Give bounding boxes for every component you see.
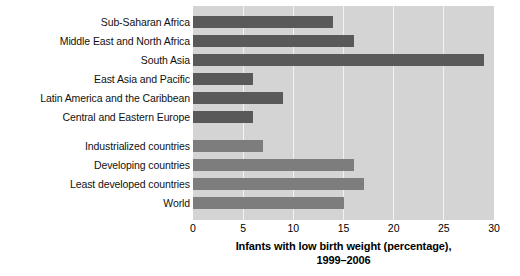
bar bbox=[193, 159, 354, 171]
category-label: Latin America and the Caribbean bbox=[0, 93, 190, 104]
category-label: Middle East and North Africa bbox=[0, 36, 190, 47]
caption-line-1: Infants with low birth weight (percentag… bbox=[236, 240, 452, 252]
bar-chart-figure: Sub-Saharan AfricaMiddle East and North … bbox=[0, 0, 520, 276]
category-label: Developing countries bbox=[0, 160, 190, 171]
bar bbox=[193, 16, 333, 28]
category-label: East Asia and Pacific bbox=[0, 74, 190, 85]
category-axis-labels: Sub-Saharan AfricaMiddle East and North … bbox=[0, 6, 190, 220]
bar bbox=[193, 178, 364, 190]
bar bbox=[193, 35, 354, 47]
category-label: South Asia bbox=[0, 55, 190, 66]
bar bbox=[193, 197, 344, 209]
category-label: World bbox=[0, 198, 190, 209]
bar bbox=[193, 140, 263, 152]
x-tick-label: 30 bbox=[488, 222, 500, 234]
category-label: Sub-Saharan Africa bbox=[0, 17, 190, 28]
x-tick-label: 15 bbox=[338, 222, 350, 234]
caption-line-2: 1999–2006 bbox=[193, 253, 494, 267]
x-tick-label: 0 bbox=[190, 222, 196, 234]
chart-caption: Infants with low birth weight (percentag… bbox=[193, 239, 494, 267]
gridline-30 bbox=[494, 6, 495, 220]
x-tick-label: 10 bbox=[287, 222, 299, 234]
bar bbox=[193, 92, 283, 104]
x-tick-label: 20 bbox=[388, 222, 400, 234]
category-label: Industrialized countries bbox=[0, 141, 190, 152]
category-label: Central and Eastern Europe bbox=[0, 112, 190, 123]
bar bbox=[193, 73, 253, 85]
x-axis: 051015202530 bbox=[193, 220, 494, 236]
x-tick-label: 25 bbox=[438, 222, 450, 234]
plot-area bbox=[193, 6, 494, 220]
gridline-20 bbox=[393, 6, 394, 220]
bar bbox=[193, 111, 253, 123]
gridline-25 bbox=[443, 6, 444, 220]
bar bbox=[193, 54, 484, 66]
category-label: Least developed countries bbox=[0, 179, 190, 190]
x-tick-label: 5 bbox=[240, 222, 246, 234]
